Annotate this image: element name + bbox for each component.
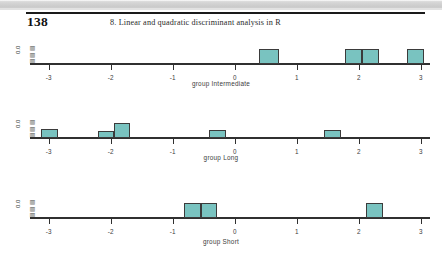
plot-area: -3-2-10123: [30, 192, 430, 236]
x-axis-title: group Short: [0, 238, 442, 245]
x-axis-line: [30, 137, 430, 139]
x-tick: [421, 65, 422, 70]
histogram-bar: [345, 49, 362, 64]
x-tick: [49, 65, 50, 70]
histogram-bar: [209, 130, 226, 138]
x-tick-label: 0: [233, 228, 237, 235]
x-tick-label: -2: [108, 228, 114, 235]
x-tick-label: 3: [419, 228, 423, 235]
x-tick: [235, 65, 236, 70]
x-tick: [173, 219, 174, 224]
x-tick: [359, 219, 360, 224]
x-tick: [359, 139, 360, 144]
histogram-bar: [184, 203, 201, 218]
x-tick: [297, 219, 298, 224]
histogram-bar: [407, 49, 424, 64]
x-tick-label: -3: [46, 228, 52, 235]
x-tick: [49, 219, 50, 224]
x-tick: [297, 65, 298, 70]
x-tick: [111, 139, 112, 144]
histogram-bar: [324, 130, 341, 138]
scan-artifact-band-secondary: [0, 8, 442, 10]
histogram-bar: [98, 131, 114, 138]
x-tick: [111, 65, 112, 70]
histogram-bar: [201, 203, 218, 218]
x-tick: [173, 139, 174, 144]
page-number: 138: [27, 14, 48, 30]
plot-area: -3-2-10123: [30, 38, 430, 82]
plot-area: -3-2-10123: [30, 112, 430, 156]
histogram-bar: [362, 49, 379, 64]
x-tick-label: 2: [357, 228, 361, 235]
histogram-bar: [259, 49, 279, 64]
histogram-bar: [366, 203, 383, 218]
x-tick: [297, 139, 298, 144]
x-tick-label: -1: [170, 228, 176, 235]
x-axis-title: group Intermediate: [0, 80, 442, 87]
running-head: 8. Linear and quadratic discriminant ana…: [110, 18, 281, 27]
x-tick: [235, 139, 236, 144]
x-tick: [359, 65, 360, 70]
x-tick-label: 1: [295, 228, 299, 235]
x-tick: [235, 219, 236, 224]
histogram-panel-short: 0.0 ▤▤▤ -3-2-10123 group Short: [0, 192, 442, 258]
x-axis-title: group Long: [0, 154, 442, 161]
histogram-bar: [114, 123, 130, 138]
x-tick: [421, 139, 422, 144]
x-tick: [49, 139, 50, 144]
y-tick-label: 0.0: [15, 120, 21, 128]
x-tick: [111, 219, 112, 224]
y-tick-label: 0.0: [15, 200, 21, 208]
header-rule: [26, 12, 425, 14]
histogram-bar: [41, 129, 58, 138]
x-tick: [421, 219, 422, 224]
histogram-panel-intermediate: 0.0 ▤▤▤ -3-2-10123 group Intermediate: [0, 38, 442, 100]
y-tick-label: 0.0: [15, 46, 21, 54]
histogram-panel-long: 0.0 ▤▤▤ -3-2-10123 group Long: [0, 112, 442, 174]
x-tick: [173, 65, 174, 70]
